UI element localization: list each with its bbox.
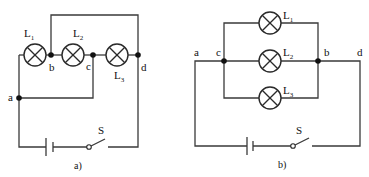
label-l3-a: L3 [114,69,125,84]
label-node-d-a: d [141,61,147,73]
circuit-diagrams: L1 L2 L3 b c d a S a) [0,0,369,177]
node-c-a [90,52,96,58]
wire-left-vertical [19,55,46,147]
label-node-a-b: a [194,46,199,58]
label-node-c-b: c [216,46,221,58]
caption-a: a) [74,160,82,172]
node-a-a [16,95,22,101]
label-switch-b: S [296,124,302,136]
lamp-l3-b [259,87,281,109]
label-l1-b: L1 [283,9,294,24]
switch-pivot[interactable] [87,145,92,150]
lamp-l1-a [24,44,46,66]
switch-lever[interactable] [295,138,309,145]
lamp-l2-a [62,44,84,66]
wire-left-outer [195,61,247,146]
switch-lever[interactable] [91,139,105,146]
node-d-a [135,52,141,58]
switch-pivot[interactable] [291,144,296,149]
label-l3-b: L3 [283,84,294,99]
circuit-b: L1 L2 L3 a c b d S b) [194,9,363,171]
node-b-a [48,52,54,58]
node-b-b [315,58,321,64]
node-c-b [221,58,227,64]
label-node-a-a: a [8,91,13,103]
wire-right-outer [312,61,360,146]
circuit-a: L1 L2 L3 b c d a S a) [8,15,147,172]
caption-b: b) [278,159,286,171]
label-node-c-a: c [86,60,91,72]
label-node-d-b: d [357,46,363,58]
label-node-b-a: b [49,61,55,73]
label-switch-a: S [98,124,104,136]
label-l1-a: L1 [24,27,35,42]
label-l2-a: L2 [73,27,84,42]
lamp-l2-b [259,50,281,72]
wire-right-vertical [108,55,138,147]
lamp-l1-b [259,12,281,34]
label-node-b-b: b [324,46,330,58]
label-l2-b: L2 [283,46,294,61]
lamp-l3-a [106,44,128,66]
